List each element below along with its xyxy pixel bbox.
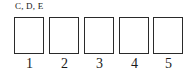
slot-number-5: 5 (153, 56, 184, 72)
slot-number-1: 1 (14, 56, 45, 72)
slot-number-2: 2 (49, 56, 80, 72)
slot-label: C, D, E (15, 1, 43, 11)
slot-number-4: 4 (119, 56, 150, 72)
slot-box-4 (119, 17, 149, 54)
slot-box-3 (84, 17, 114, 54)
slot-box-1 (14, 17, 44, 54)
slot-box-2 (49, 17, 79, 54)
slot-box-5 (153, 17, 183, 54)
slot-number-3: 3 (84, 56, 115, 72)
